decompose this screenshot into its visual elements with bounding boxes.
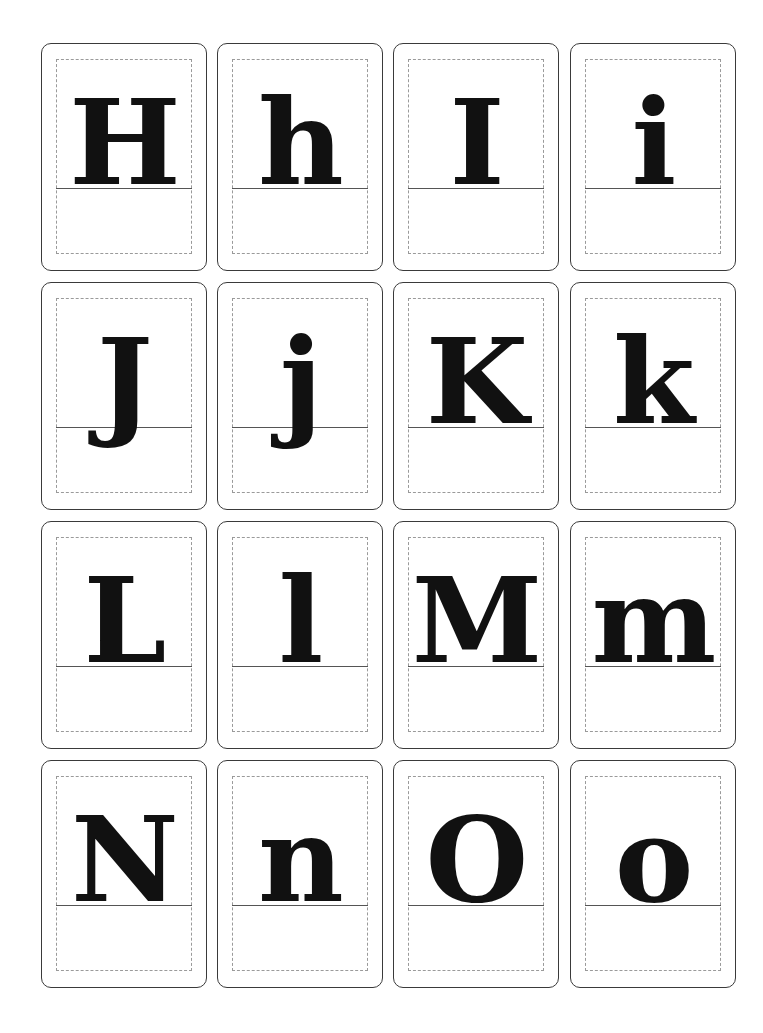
letter-card: O xyxy=(393,760,559,988)
card-letter: i xyxy=(632,97,675,189)
letter-card: N xyxy=(41,760,207,988)
card-letter: L xyxy=(84,575,165,667)
card-letter: M xyxy=(412,575,541,667)
letter-card: I xyxy=(393,43,559,271)
letter-card: M xyxy=(393,521,559,749)
letter-card: i xyxy=(570,43,736,271)
card-letter: n xyxy=(258,814,342,906)
card-letter: j xyxy=(280,336,321,428)
card-letter: k xyxy=(613,336,693,428)
card-letter: H xyxy=(69,97,179,189)
letter-card: j xyxy=(217,282,383,510)
card-letter: l xyxy=(279,575,322,667)
letter-card: h xyxy=(217,43,383,271)
card-letter: O xyxy=(426,814,527,906)
letter-card: l xyxy=(217,521,383,749)
card-letter: o xyxy=(615,814,692,906)
card-letter: N xyxy=(71,814,177,906)
letter-card: H xyxy=(41,43,207,271)
card-letter: J xyxy=(97,336,151,428)
letter-card: k xyxy=(570,282,736,510)
letter-card: n xyxy=(217,760,383,988)
letter-card: J xyxy=(41,282,207,510)
card-letter: I xyxy=(449,97,502,189)
letter-card: o xyxy=(570,760,736,988)
letter-card: m xyxy=(570,521,736,749)
card-letter: m xyxy=(592,575,715,667)
card-letter: h xyxy=(258,97,342,189)
card-letter: K xyxy=(426,336,527,428)
letter-card: L xyxy=(41,521,207,749)
letter-card: K xyxy=(393,282,559,510)
